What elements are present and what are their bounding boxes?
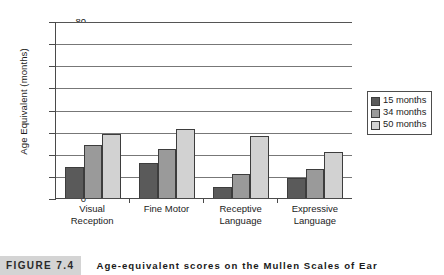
x-axis-labels: VisualReceptionFine MotorReceptiveLangua…	[55, 203, 352, 237]
bar	[139, 163, 158, 198]
legend-label: 50 months	[383, 120, 426, 129]
bar	[176, 129, 195, 198]
figure-caption-text: Age-equivalent scores on the Mullen Scal…	[96, 260, 377, 271]
bar-group	[56, 22, 130, 198]
x-tick-label: ExpressiveLanguage	[278, 203, 352, 237]
figure-root: Age Equivalent (months) 0102030405060708…	[0, 0, 444, 275]
x-tick-label: VisualReception	[55, 203, 129, 237]
bar-set	[287, 22, 344, 198]
bar	[65, 167, 84, 198]
bar-group	[278, 22, 352, 198]
figure-number: FIGURE 7.4	[0, 256, 81, 275]
legend-swatch-icon	[371, 109, 380, 118]
x-tick-label: ReceptiveLanguage	[204, 203, 278, 237]
bar	[306, 169, 325, 198]
bar-chart: Age Equivalent (months) 0102030405060708…	[0, 0, 444, 240]
bar	[287, 178, 306, 198]
legend-item: 15 months	[371, 95, 426, 107]
bar	[232, 174, 251, 198]
bar-set	[139, 22, 196, 198]
legend-swatch-icon	[371, 121, 380, 130]
y-axis-label: Age Equivalent (months)	[18, 17, 29, 187]
chart-legend: 15 months34 months50 months	[367, 91, 432, 135]
legend-item: 34 months	[371, 107, 426, 119]
bar	[213, 187, 232, 198]
bar-set	[213, 22, 270, 198]
x-tick-label: Fine Motor	[129, 203, 203, 237]
legend-label: 34 months	[383, 108, 426, 117]
y-tick-mark	[49, 199, 56, 200]
legend-item: 50 months	[371, 119, 426, 131]
legend-label: 15 months	[383, 96, 426, 105]
bar	[250, 136, 269, 198]
bar-groups	[56, 22, 352, 198]
plot-area	[55, 22, 352, 199]
figure-caption: FIGURE 7.4 Age-equivalent scores on the …	[0, 256, 444, 275]
bar	[324, 152, 343, 198]
bar	[102, 134, 121, 198]
bar-set	[65, 22, 122, 198]
legend-swatch-icon	[371, 97, 380, 106]
bar	[158, 149, 177, 198]
bar	[84, 145, 103, 198]
bar-group	[130, 22, 204, 198]
bar-group	[204, 22, 278, 198]
